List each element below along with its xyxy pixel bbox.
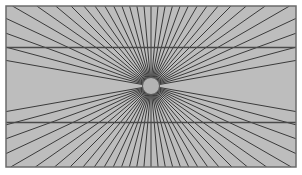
illusion-figure	[0, 0, 302, 175]
illusion-canvas	[0, 0, 302, 175]
center-circle	[143, 78, 160, 95]
figure-caption	[6, 168, 296, 174]
